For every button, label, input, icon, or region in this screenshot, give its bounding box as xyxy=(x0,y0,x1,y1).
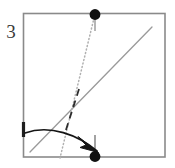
top-reference-point-marker xyxy=(90,9,101,20)
bottom-target-point-marker xyxy=(90,151,101,162)
origami-step-figure: { "figure": { "step_label": "3", "title"… xyxy=(0,0,175,168)
origami-diagram-svg: Origami folding diagram step 3 xyxy=(0,0,175,168)
